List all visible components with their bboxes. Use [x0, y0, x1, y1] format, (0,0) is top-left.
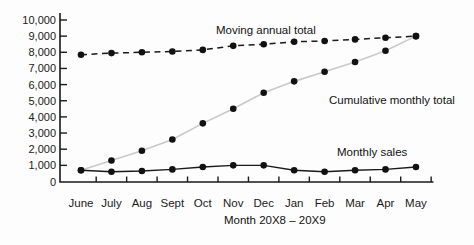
series-label-moving-annual-total: Moving annual total [216, 24, 316, 36]
data-point-monthly-sales [352, 167, 359, 174]
chart-container: 01,0002,0003,0004,0005,0006,0007,0008,00… [0, 0, 474, 245]
data-point-cumulative-monthly-total [413, 33, 420, 40]
data-point-monthly-sales [200, 164, 207, 171]
moving-annual-total-line [81, 36, 416, 55]
x-axis-month-label: May [405, 197, 427, 209]
data-point-moving-annual-total [230, 43, 237, 50]
y-axis-tick-label: 4,000 [28, 111, 56, 123]
data-point-monthly-sales [260, 162, 267, 169]
data-point-moving-annual-total [200, 47, 207, 54]
series-label-monthly-sales: Monthly sales [337, 146, 407, 158]
x-axis-month-label: Aug [132, 197, 152, 209]
x-axis-title: Month 20X8 – 20X9 [224, 214, 326, 226]
data-point-moving-annual-total [108, 50, 115, 57]
data-point-cumulative-monthly-total [352, 59, 359, 66]
data-point-moving-annual-total [321, 38, 328, 45]
y-axis-tick-label: 7,000 [28, 62, 56, 74]
data-point-monthly-sales [413, 164, 420, 171]
y-axis-tick-label: 10,000 [22, 14, 56, 26]
y-axis-tick-label: 9,000 [28, 30, 56, 42]
data-point-cumulative-monthly-total [382, 47, 389, 54]
y-axis-tick-label: 0 [50, 176, 56, 188]
data-point-monthly-sales [230, 162, 237, 169]
data-point-moving-annual-total [78, 51, 85, 58]
plot-area: 01,0002,0003,0004,0005,0006,0007,0008,00… [0, 0, 474, 245]
data-point-monthly-sales [321, 169, 328, 176]
y-axis-tick-label: 3,000 [28, 127, 56, 139]
data-point-moving-annual-total [352, 36, 359, 43]
data-point-monthly-sales [108, 169, 115, 176]
x-axis-month-label: Feb [315, 197, 335, 209]
y-axis-tick-label: 8,000 [28, 46, 56, 58]
x-axis-month-label: Oct [194, 197, 213, 209]
data-point-moving-annual-total [139, 49, 146, 56]
data-point-monthly-sales [139, 168, 146, 175]
x-axis-month-label: Sept [161, 197, 185, 209]
data-point-cumulative-monthly-total [321, 68, 328, 75]
y-axis-tick-label: 5,000 [28, 95, 56, 107]
data-point-cumulative-monthly-total [260, 89, 267, 96]
x-axis-month-label: Jan [285, 197, 304, 209]
x-axis-month-label: Apr [377, 197, 395, 209]
data-point-monthly-sales [291, 167, 298, 174]
x-axis-month-label: Mar [345, 197, 365, 209]
data-point-monthly-sales [78, 167, 85, 174]
data-point-moving-annual-total [382, 34, 389, 41]
x-axis-month-label: Dec [253, 197, 274, 209]
y-axis-tick-label: 1,000 [28, 159, 56, 171]
y-axis-tick-label: 2,000 [28, 143, 56, 155]
data-point-moving-annual-total [169, 48, 176, 55]
data-point-monthly-sales [169, 166, 176, 173]
data-point-cumulative-monthly-total [139, 148, 146, 155]
x-axis-month-label: June [69, 197, 94, 209]
data-point-cumulative-monthly-total [200, 120, 207, 127]
data-point-moving-annual-total [260, 41, 267, 48]
data-point-cumulative-monthly-total [108, 157, 115, 164]
data-point-cumulative-monthly-total [169, 136, 176, 143]
x-axis-month-label: July [101, 197, 122, 209]
data-point-cumulative-monthly-total [230, 106, 237, 113]
data-point-cumulative-monthly-total [291, 78, 298, 85]
series-label-cumulative-monthly-total: Cumulative monthly total [329, 94, 455, 106]
data-point-monthly-sales [382, 166, 389, 173]
x-axis-month-label: Nov [223, 197, 244, 209]
monthly-sales-line [81, 165, 416, 171]
y-axis-tick-label: 6,000 [28, 79, 56, 91]
data-point-moving-annual-total [291, 39, 298, 46]
